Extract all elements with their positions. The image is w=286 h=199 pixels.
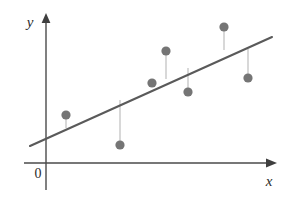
y-axis-arrow-icon <box>42 13 51 23</box>
origin-label: 0 <box>35 166 42 181</box>
data-point <box>243 73 252 82</box>
data-point <box>147 78 156 87</box>
residual-segments-group <box>66 27 248 145</box>
x-axis-arrow-icon <box>266 158 277 167</box>
data-point <box>115 140 124 149</box>
data-point <box>61 110 70 119</box>
regression-line <box>30 37 272 146</box>
scatter-plot-svg: y x 0 <box>0 0 286 199</box>
data-point <box>161 46 170 55</box>
scatter-plot-figure: y x 0 <box>0 0 286 199</box>
x-axis-label: x <box>265 173 273 189</box>
data-point <box>183 87 192 96</box>
y-axis-label: y <box>25 14 34 30</box>
data-point <box>219 22 228 31</box>
